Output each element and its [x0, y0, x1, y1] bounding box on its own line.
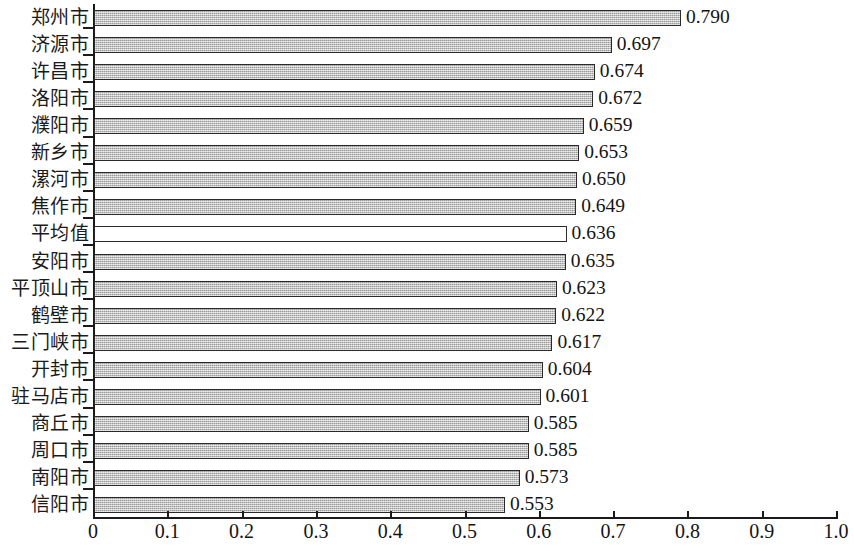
category-label: 濮阳市 — [31, 116, 90, 135]
bar-value-label: 0.622 — [561, 305, 605, 325]
x-axis-tick — [390, 511, 392, 519]
bar-value-label: 0.604 — [548, 359, 592, 379]
bar-value-label: 0.672 — [598, 88, 642, 108]
bar-row: 开封市0.604 — [0, 356, 854, 383]
x-axis-tick — [93, 511, 95, 519]
y-axis-tick — [83, 298, 93, 300]
category-label: 商丘市 — [31, 414, 90, 433]
bar-row: 焦作市0.649 — [0, 194, 854, 221]
category-label: 信阳市 — [31, 496, 90, 515]
category-label: 洛阳市 — [31, 89, 90, 108]
bar-row: 驻马店市0.601 — [0, 383, 854, 410]
bar-row: 平均值0.636 — [0, 221, 854, 248]
bar — [94, 64, 595, 80]
x-axis-tick — [316, 511, 318, 519]
bar-chart: 郑州市0.790济源市0.697许昌市0.674洛阳市0.672濮阳市0.659… — [0, 0, 854, 551]
x-axis-tick — [539, 511, 541, 519]
y-axis-tick — [83, 352, 93, 354]
category-label: 新乡市 — [31, 143, 90, 162]
bar — [94, 308, 556, 324]
y-axis-tick — [83, 488, 93, 490]
x-axis-tick-label: 0.7 — [601, 521, 626, 541]
bar — [94, 145, 579, 161]
bar-row: 濮阳市0.659 — [0, 112, 854, 139]
bar-value-label: 0.573 — [525, 468, 569, 488]
x-axis-tick-label: 0.5 — [452, 521, 477, 541]
bar-row: 南阳市0.573 — [0, 465, 854, 492]
bar-row: 鹤壁市0.622 — [0, 302, 854, 329]
bar-row: 商丘市0.585 — [0, 411, 854, 438]
x-axis-tick-label: 0.8 — [675, 521, 700, 541]
y-axis-tick — [83, 434, 93, 436]
bar — [94, 91, 593, 107]
x-axis-tick — [613, 511, 615, 519]
bar-row: 信阳市0.553 — [0, 492, 854, 519]
category-label: 平均值 — [31, 225, 90, 244]
y-axis-tick — [83, 27, 93, 29]
bar-value-label: 0.601 — [546, 387, 590, 407]
bar-value-label: 0.553 — [510, 495, 554, 514]
category-label: 济源市 — [31, 35, 90, 54]
bar — [94, 362, 543, 378]
bar-row: 许昌市0.674 — [0, 58, 854, 85]
x-axis-tick — [167, 511, 169, 519]
bar-row: 平顶山市0.623 — [0, 275, 854, 302]
x-axis-tick — [465, 511, 467, 519]
category-label: 三门峡市 — [11, 333, 89, 352]
y-axis-tick — [83, 81, 93, 83]
bar — [94, 118, 584, 134]
y-axis-tick — [83, 325, 93, 327]
y-axis-tick — [83, 163, 93, 165]
category-label: 南阳市 — [31, 468, 90, 487]
y-axis-tick — [83, 190, 93, 192]
bar — [94, 470, 520, 486]
bar — [94, 10, 681, 26]
bar-value-label: 0.585 — [534, 441, 578, 461]
x-axis-tick-label: 0.4 — [378, 521, 403, 541]
bar — [94, 389, 541, 405]
x-axis-tick — [687, 511, 689, 519]
bar-row: 洛阳市0.672 — [0, 85, 854, 112]
bar-value-label: 0.636 — [572, 224, 616, 244]
bar — [94, 443, 529, 459]
bar-row: 新乡市0.653 — [0, 140, 854, 167]
x-axis-tick — [836, 511, 838, 519]
bar — [94, 497, 505, 513]
bar — [94, 254, 566, 270]
y-axis-tick — [83, 54, 93, 56]
category-label: 周口市 — [31, 441, 90, 460]
x-axis-tick — [762, 511, 764, 519]
bar-value-label: 0.623 — [562, 278, 606, 298]
bar-value-label: 0.697 — [617, 34, 661, 54]
bar — [94, 172, 577, 188]
bar-row: 郑州市0.790 — [0, 4, 854, 31]
x-axis-tick-label: 0.9 — [749, 521, 774, 541]
y-axis-tick — [83, 461, 93, 463]
y-axis-tick — [83, 379, 93, 381]
bar-value-label: 0.585 — [534, 414, 578, 434]
category-label: 平顶山市 — [11, 279, 89, 298]
bar-value-label: 0.635 — [571, 251, 615, 271]
bar-row: 周口市0.585 — [0, 438, 854, 465]
bar-value-label: 0.617 — [557, 332, 601, 352]
y-axis-tick — [83, 108, 93, 110]
bar — [94, 416, 529, 432]
x-axis-tick-label: 0.2 — [229, 521, 254, 541]
category-label: 驻马店市 — [11, 387, 89, 406]
x-axis-tick-label: 1.0 — [824, 521, 849, 541]
category-label: 安阳市 — [31, 252, 90, 271]
bar-row: 三门峡市0.617 — [0, 329, 854, 356]
bar — [94, 199, 576, 215]
category-label: 郑州市 — [31, 8, 90, 27]
y-axis-tick — [83, 244, 93, 246]
bar-value-label: 0.653 — [584, 143, 628, 163]
category-label: 鹤壁市 — [31, 306, 90, 325]
bar-row: 安阳市0.635 — [0, 248, 854, 275]
x-axis-tick-label: 0.6 — [526, 521, 551, 541]
bar-value-label: 0.659 — [589, 116, 633, 136]
bar — [94, 281, 557, 297]
bar — [94, 335, 552, 351]
x-axis-tick-label: 0.3 — [303, 521, 328, 541]
bar-row: 济源市0.697 — [0, 31, 854, 58]
x-axis-tick — [242, 511, 244, 519]
